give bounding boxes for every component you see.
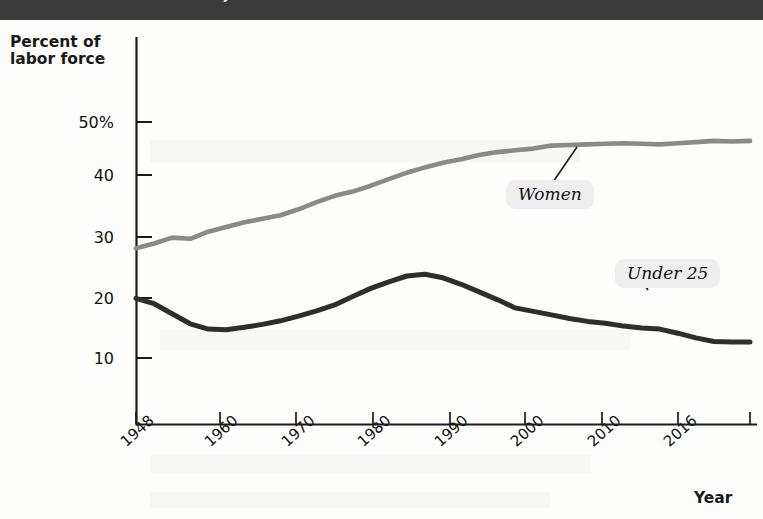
series-callout-under25: Under 25 <box>615 259 720 288</box>
data-line-women <box>136 141 750 248</box>
chart-page: he U.S. Labor Force, 1948–2016 Percent o… <box>0 0 763 519</box>
x-axis-ticks <box>136 412 750 424</box>
leader-line-women <box>553 147 577 182</box>
series-callout-women: Women <box>506 180 594 209</box>
y-axis-ticks <box>137 122 152 358</box>
